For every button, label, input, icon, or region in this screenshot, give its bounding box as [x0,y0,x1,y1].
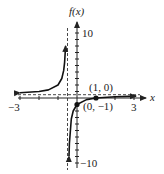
x-axis-label: x [149,91,155,103]
curve-left-branch [20,46,66,93]
point-label-1-0: (1, 0) [89,81,113,94]
x-max-label: 3 [131,101,137,113]
point-label-0-neg1: (0, −1) [83,100,113,113]
y-max-label: 10 [82,27,94,39]
function-graph: f(x) x 10 −10 −3 3 (1, 0) (0, −1) [0,0,164,174]
point-0-neg1 [74,102,79,107]
y-axis-label: f(x) [69,5,85,18]
y-min-label: −10 [80,157,98,169]
x-min-label: −3 [8,101,20,113]
